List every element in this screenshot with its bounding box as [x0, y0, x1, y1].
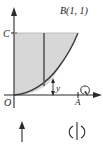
rotation-right-arc-icon	[81, 126, 85, 138]
figure-container: C B(1, 1) O A y	[0, 0, 103, 145]
x-axis-arrow-icon	[93, 92, 102, 98]
label-a: A	[74, 97, 81, 107]
y-axis-arrow-icon	[11, 7, 17, 16]
label-c: C	[3, 28, 10, 39]
label-y: y	[55, 83, 60, 93]
calculus-region-figure: C B(1, 1) O A y	[0, 0, 103, 145]
label-b: B(1, 1)	[60, 5, 88, 17]
rotation-left-arc-icon	[69, 126, 73, 138]
up-arrow-icon	[19, 121, 25, 129]
label-origin: O	[4, 97, 11, 108]
shaded-region	[14, 33, 78, 95]
